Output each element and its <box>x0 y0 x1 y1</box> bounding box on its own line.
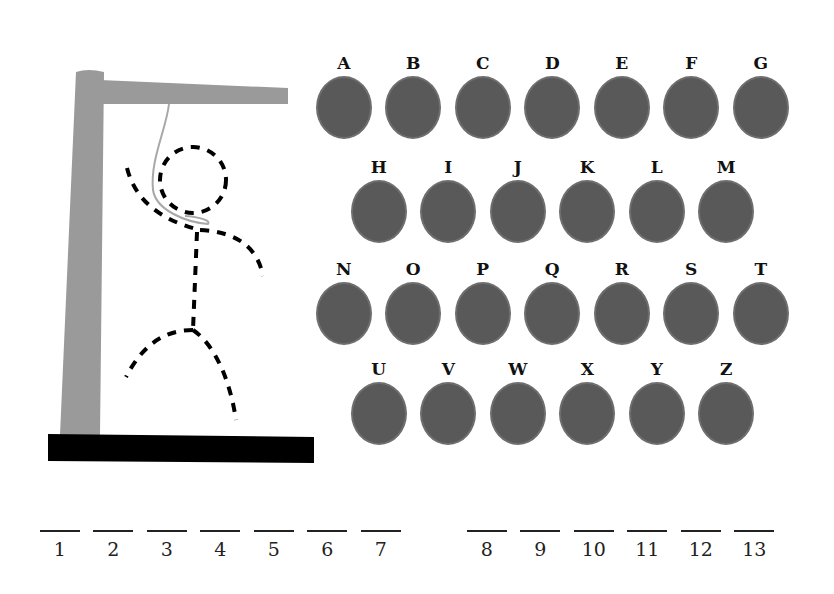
word-slot: 8 <box>460 530 514 560</box>
letter-button[interactable] <box>316 76 372 139</box>
letter-button[interactable] <box>698 382 754 445</box>
blank-line <box>574 530 614 532</box>
left-leg <box>126 330 193 377</box>
letter-key-h[interactable]: H <box>344 154 414 243</box>
letter-key-b[interactable]: B <box>379 50 449 139</box>
word-slot: 10 <box>567 530 621 560</box>
letter-key-a[interactable]: A <box>309 50 379 139</box>
letter-button[interactable] <box>524 282 580 345</box>
letter-key-e[interactable]: E <box>587 50 657 139</box>
letter-key-w[interactable]: W <box>483 356 553 445</box>
letter-button[interactable] <box>629 180 685 243</box>
letter-key-k[interactable]: K <box>553 154 623 243</box>
blank-line <box>93 530 133 532</box>
keyboard-row-2: H I J K L M <box>344 154 761 243</box>
letter-key-u[interactable]: U <box>344 356 414 445</box>
word-slot: 4 <box>194 530 248 560</box>
keyboard-row-3: N O P Q R S T <box>309 256 796 345</box>
word-slot: 7 <box>354 530 408 560</box>
letter-button[interactable] <box>455 282 511 345</box>
letter-button[interactable] <box>629 382 685 445</box>
blank-line <box>681 530 721 532</box>
word-slot: 9 <box>514 530 568 560</box>
letter-key-n[interactable]: N <box>309 256 379 345</box>
letter-button[interactable] <box>420 382 476 445</box>
blank-line <box>40 530 80 532</box>
gallows-base <box>48 434 314 463</box>
word-slot: 5 <box>247 530 301 560</box>
letter-key-f[interactable]: F <box>657 50 727 139</box>
word-slots-group-2: 8 9 10 11 12 13 <box>460 530 781 560</box>
word-slot: 1 <box>33 530 87 560</box>
letter-button[interactable] <box>524 76 580 139</box>
letter-key-c[interactable]: C <box>448 50 518 139</box>
letter-key-g[interactable]: G <box>726 50 796 139</box>
gallows-post <box>60 70 104 435</box>
blank-line <box>734 530 774 532</box>
blank-line <box>520 530 560 532</box>
letter-button[interactable] <box>733 282 789 345</box>
letter-key-v[interactable]: V <box>414 356 484 445</box>
blank-line <box>627 530 667 532</box>
letter-key-l[interactable]: L <box>622 154 692 243</box>
blank-line <box>254 530 294 532</box>
letter-button[interactable] <box>490 382 546 445</box>
keyboard-row-4: U V W X Y Z <box>344 356 761 445</box>
word-slot: 12 <box>674 530 728 560</box>
letter-button[interactable] <box>385 76 441 139</box>
letter-key-i[interactable]: I <box>414 154 484 243</box>
letter-button[interactable] <box>490 180 546 243</box>
blank-line <box>361 530 401 532</box>
word-slot: 11 <box>621 530 675 560</box>
word-slot: 3 <box>140 530 194 560</box>
letter-key-d[interactable]: D <box>518 50 588 139</box>
blank-line <box>467 530 507 532</box>
body <box>193 232 197 330</box>
letter-button[interactable] <box>594 76 650 139</box>
rope <box>153 104 209 224</box>
letter-key-m[interactable]: M <box>692 154 762 243</box>
letter-key-x[interactable]: X <box>553 356 623 445</box>
letter-button[interactable] <box>316 282 372 345</box>
letter-button[interactable] <box>455 76 511 139</box>
letter-button[interactable] <box>351 180 407 243</box>
right-leg <box>193 330 236 420</box>
letter-key-q[interactable]: Q <box>518 256 588 345</box>
letter-button[interactable] <box>559 180 615 243</box>
letter-button[interactable] <box>663 76 719 139</box>
letter-button[interactable] <box>559 382 615 445</box>
letter-button[interactable] <box>351 382 407 445</box>
gallows-drawing <box>0 0 330 480</box>
letter-button[interactable] <box>420 180 476 243</box>
letter-button[interactable] <box>663 282 719 345</box>
letter-key-o[interactable]: O <box>379 256 449 345</box>
blank-line <box>307 530 347 532</box>
head <box>160 147 226 213</box>
letter-key-y[interactable]: Y <box>622 356 692 445</box>
letter-button[interactable] <box>385 282 441 345</box>
letter-key-p[interactable]: P <box>448 256 518 345</box>
letter-button[interactable] <box>733 76 789 139</box>
letter-key-r[interactable]: R <box>587 256 657 345</box>
letter-key-s[interactable]: S <box>657 256 727 345</box>
blank-line <box>200 530 240 532</box>
letter-button[interactable] <box>698 180 754 243</box>
word-slot: 2 <box>87 530 141 560</box>
word-slot: 6 <box>301 530 355 560</box>
letter-key-t[interactable]: T <box>726 256 796 345</box>
letter-key-z[interactable]: Z <box>692 356 762 445</box>
word-slots-group-1: 1 2 3 4 5 6 7 <box>33 530 408 560</box>
letter-button[interactable] <box>594 282 650 345</box>
keyboard-row-1: A B C D E F G <box>309 50 796 139</box>
letter-key-j[interactable]: J <box>483 154 553 243</box>
gallows-beam <box>100 80 288 104</box>
blank-line <box>147 530 187 532</box>
right-arm <box>200 230 263 276</box>
word-slot: 13 <box>728 530 782 560</box>
